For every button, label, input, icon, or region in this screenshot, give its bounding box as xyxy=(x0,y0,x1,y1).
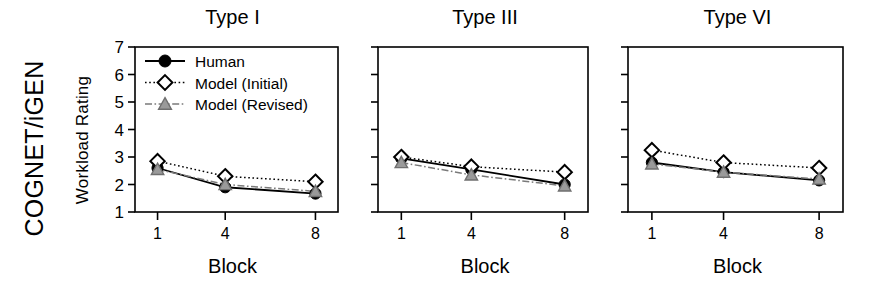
series-line-filled-circle-icon xyxy=(401,158,564,184)
series-line-open-diamond-icon xyxy=(401,157,564,172)
y-tick-label: 7 xyxy=(115,38,124,57)
x-tick-label: 1 xyxy=(397,225,406,242)
plot-area: 1234567148HumanModel (Initial)Model (Rev… xyxy=(105,0,360,250)
x-axis-title: Block xyxy=(360,255,610,278)
x-tick-label: 4 xyxy=(719,225,728,242)
y-tick-label: 5 xyxy=(115,93,124,112)
y-axis-title: Workload Rating xyxy=(73,40,93,240)
x-tick-label: 1 xyxy=(153,225,162,242)
open-diamond-icon xyxy=(645,143,659,157)
plot-area: 148 xyxy=(610,0,865,250)
chart-panel-type-vi: Type VI 148 Block xyxy=(610,0,865,298)
figure-group-label: COGNET/iGEN xyxy=(20,39,49,259)
y-tick-label: 1 xyxy=(115,203,124,222)
workload-rating-figure: COGNET/iGEN Workload Rating Type I 12345… xyxy=(0,0,879,298)
y-tick-label: 2 xyxy=(115,176,124,195)
series-line-open-diamond-icon xyxy=(158,161,316,182)
legend-label: Model (Revised) xyxy=(195,96,308,113)
x-tick-label: 8 xyxy=(560,225,569,242)
open-diamond-icon xyxy=(557,165,571,179)
open-diamond-icon xyxy=(158,75,173,90)
x-axis-title: Block xyxy=(105,255,360,278)
x-tick-label: 1 xyxy=(647,225,656,242)
x-tick-label: 4 xyxy=(467,225,476,242)
y-tick-label: 6 xyxy=(115,66,124,85)
y-tick-label: 4 xyxy=(115,121,124,140)
plot-frame xyxy=(378,47,588,212)
chart-panel-type-i: Type I 1234567148HumanModel (Initial)Mod… xyxy=(105,0,360,298)
series-line-gray-triangle-icon xyxy=(401,163,564,186)
x-axis-title: Block xyxy=(610,255,865,278)
filled-circle-icon xyxy=(159,55,171,67)
x-tick-label: 8 xyxy=(311,225,320,242)
plot-frame xyxy=(628,47,843,212)
y-tick-label: 3 xyxy=(115,148,124,167)
x-tick-label: 8 xyxy=(815,225,824,242)
chart-panel-type-iii: Type III 148 Block xyxy=(360,0,610,298)
legend-label: Model (Initial) xyxy=(195,75,288,92)
plot-area: 148 xyxy=(360,0,610,250)
legend-label: Human xyxy=(195,53,245,70)
x-tick-label: 4 xyxy=(221,225,230,242)
legend: HumanModel (Initial)Model (Revised) xyxy=(145,53,308,113)
